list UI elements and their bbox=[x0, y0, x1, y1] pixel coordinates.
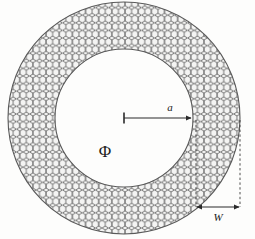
hexagonal-lattice-fill bbox=[0, 0, 255, 239]
graphene-annulus bbox=[0, 0, 255, 239]
ring-width-label: W bbox=[213, 211, 223, 223]
annulus-lattice-figure: Φ a W bbox=[0, 0, 255, 239]
flux-symbol-label: Φ bbox=[99, 142, 111, 161]
figure-canvas: Φ a W bbox=[0, 0, 255, 239]
inner-radius-label: a bbox=[167, 101, 173, 113]
